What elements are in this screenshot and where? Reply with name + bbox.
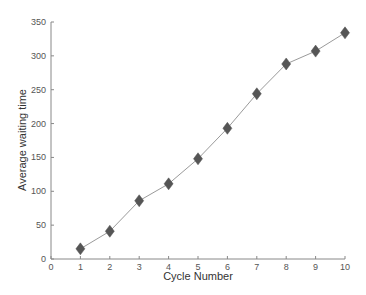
x-tick-label: 9	[313, 262, 318, 272]
diamond-marker	[164, 178, 173, 190]
y-tick-label: 350	[31, 17, 46, 27]
x-tick-label: 1	[78, 262, 83, 272]
diamond-marker	[282, 58, 291, 70]
series-markers	[76, 27, 350, 255]
y-tick-label: 100	[31, 186, 46, 196]
axes: 050100150200250300350012345678910	[31, 17, 350, 272]
series-line	[80, 33, 345, 249]
diamond-marker	[311, 45, 320, 57]
x-tick-label: 2	[107, 262, 112, 272]
diamond-marker	[105, 225, 114, 237]
diamond-marker	[76, 243, 85, 255]
line-chart: 050100150200250300350012345678910 Cycle …	[0, 0, 366, 295]
diamond-marker	[194, 153, 203, 165]
y-tick-label: 250	[31, 85, 46, 95]
y-tick-label: 150	[31, 152, 46, 162]
x-tick-label: 8	[284, 262, 289, 272]
y-tick-label: 50	[36, 220, 46, 230]
y-tick-label: 0	[41, 254, 46, 264]
x-tick-label: 7	[254, 262, 259, 272]
x-tick-label: 0	[48, 262, 53, 272]
diamond-marker	[135, 195, 144, 207]
x-axis-label: Cycle Number	[163, 270, 233, 282]
x-tick-label: 10	[340, 262, 350, 272]
x-tick-label: 3	[137, 262, 142, 272]
y-tick-label: 300	[31, 51, 46, 61]
data-line	[80, 33, 345, 249]
diamond-marker	[341, 27, 350, 39]
y-tick-label: 200	[31, 119, 46, 129]
y-axis-label: Average waiting time	[16, 89, 28, 191]
